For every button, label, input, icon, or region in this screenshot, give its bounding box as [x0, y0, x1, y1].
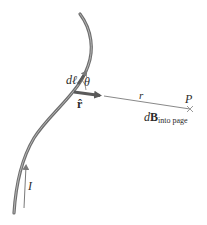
angle-label: θ — [84, 76, 90, 88]
distance-line — [104, 96, 190, 109]
field-vector: B — [150, 110, 158, 124]
current-direction-arrow-icon — [24, 166, 26, 208]
current-element-label: dℓ — [66, 74, 77, 86]
unit-vector-arrow-icon — [74, 92, 100, 96]
distance-label: r — [139, 90, 143, 101]
field-label: dBinto page — [144, 111, 188, 125]
field-subscript: into page — [158, 116, 188, 125]
unit-vector-label: r̂ — [77, 98, 82, 110]
point-p-label: P — [185, 93, 192, 105]
current-label: I — [28, 180, 32, 192]
